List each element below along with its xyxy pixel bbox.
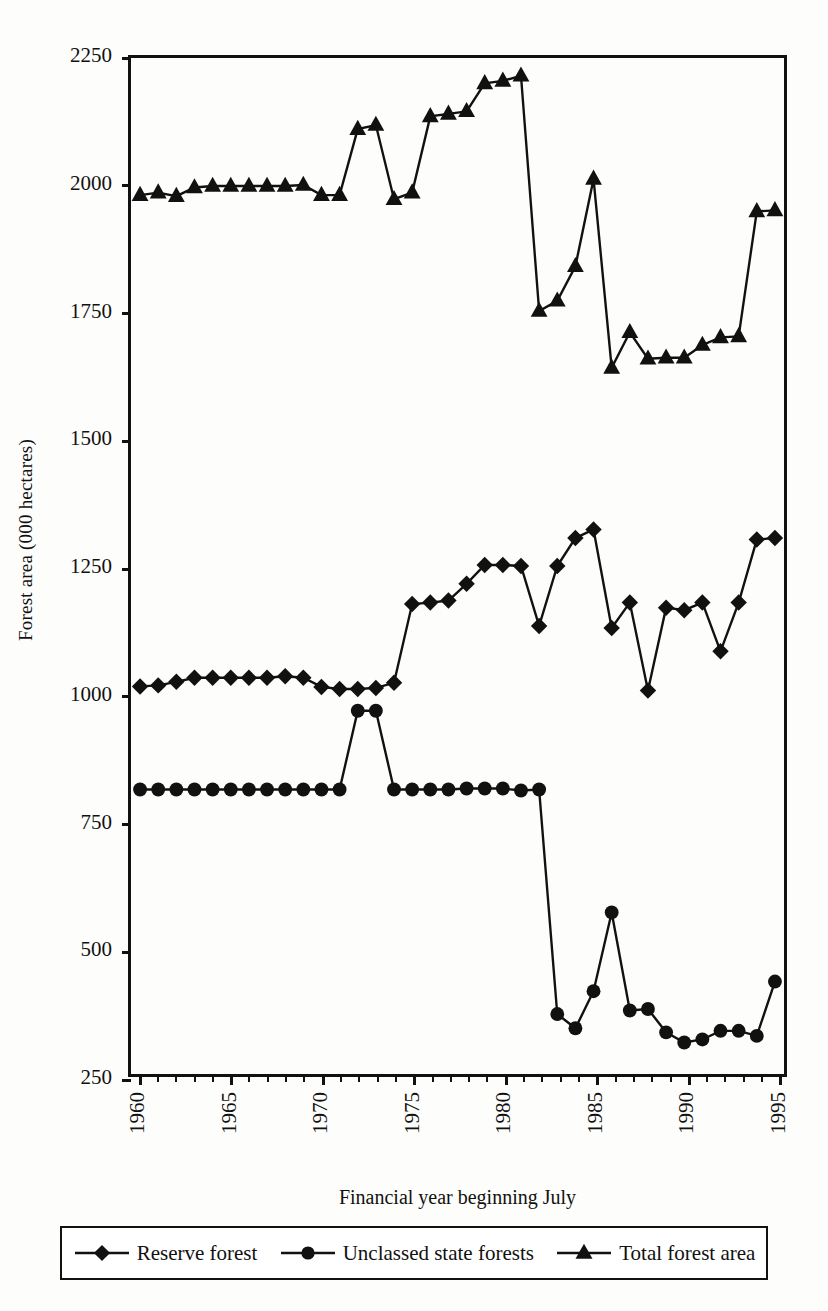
y-tick-label: 1750 — [70, 298, 112, 323]
y-tick-label: 2250 — [70, 43, 112, 68]
series-line — [140, 711, 775, 1043]
y-tick-mark — [122, 951, 131, 954]
y-tick-mark — [122, 568, 131, 571]
data-point-diamond — [640, 682, 656, 698]
x-tick-mark-major — [779, 1074, 782, 1085]
x-tick-mark-minor — [194, 1074, 196, 1082]
legend-item-circle[interactable]: Unclassed state forests — [279, 1241, 534, 1266]
data-point-diamond — [694, 594, 710, 610]
y-tick-mark — [122, 57, 131, 60]
x-tick-mark-minor — [267, 1074, 269, 1082]
x-tick-mark-minor — [706, 1074, 708, 1082]
data-point-diamond — [622, 594, 638, 610]
x-tick-mark-minor — [468, 1074, 470, 1082]
y-tick-label: 1500 — [70, 426, 112, 451]
x-tick-mark-minor — [486, 1074, 488, 1082]
data-point-circle — [623, 1004, 637, 1018]
data-point-circle — [242, 783, 256, 797]
x-tick-mark-minor — [615, 1074, 617, 1082]
data-point-triangle — [150, 183, 167, 198]
data-point-diamond — [712, 643, 728, 659]
x-tick-mark-minor — [340, 1074, 342, 1082]
x-tick-label: 1980 — [491, 1092, 516, 1134]
x-tick-mark-minor — [248, 1074, 250, 1082]
data-point-circle — [460, 782, 474, 796]
plot-area — [128, 55, 787, 1077]
data-point-diamond — [676, 602, 692, 618]
data-point-circle — [315, 783, 329, 797]
data-point-diamond — [531, 618, 547, 634]
data-point-diamond — [277, 668, 293, 684]
x-tick-mark-minor — [761, 1074, 763, 1082]
y-tick-label: 1000 — [70, 681, 112, 706]
series-diamond — [132, 521, 783, 699]
data-point-circle — [224, 783, 238, 797]
data-point-circle — [550, 1007, 564, 1021]
x-tick-mark-minor — [670, 1074, 672, 1082]
x-tick-label: 1975 — [399, 1092, 424, 1134]
data-point-circle — [206, 783, 220, 797]
x-tick-mark-minor — [432, 1074, 434, 1082]
x-tick-mark-minor — [724, 1074, 726, 1082]
data-point-triangle — [295, 176, 312, 191]
data-point-diamond — [658, 599, 674, 615]
data-point-triangle — [567, 257, 584, 272]
data-point-circle — [641, 1002, 655, 1016]
data-point-circle — [695, 1033, 709, 1047]
legend-label: Total forest area — [619, 1241, 755, 1266]
data-point-diamond — [168, 674, 184, 690]
data-point-diamond — [767, 530, 783, 546]
data-point-circle — [260, 783, 274, 797]
y-tick-mark — [122, 823, 131, 826]
series-circle — [133, 704, 782, 1050]
x-tick-mark-minor — [651, 1074, 653, 1082]
data-point-diamond — [585, 521, 601, 537]
x-tick-label: 1960 — [125, 1092, 150, 1134]
legend-item-triangle[interactable]: Total forest area — [555, 1241, 755, 1266]
data-point-triangle — [603, 359, 620, 374]
x-tick-label-text: 1980 — [491, 1092, 516, 1134]
y-tick-mark — [122, 440, 131, 443]
data-point-circle — [768, 975, 782, 989]
y-tick-label: 250 — [81, 1065, 113, 1090]
y-tick-label: 2000 — [70, 170, 112, 195]
x-tick-mark-minor — [578, 1074, 580, 1082]
x-axis-tick-labels: 19601965197019751980198519901995 — [128, 1092, 787, 1184]
legend-label: Reserve forest — [137, 1241, 258, 1266]
data-point-diamond — [186, 670, 202, 686]
data-point-circle — [188, 783, 202, 797]
data-point-diamond — [603, 620, 619, 636]
data-point-circle — [587, 984, 601, 998]
data-point-diamond — [223, 670, 239, 686]
legend-glyph — [576, 1244, 593, 1259]
x-tick-mark-minor — [560, 1074, 562, 1082]
data-point-circle — [732, 1024, 746, 1038]
data-point-diamond — [204, 670, 220, 686]
data-point-circle — [296, 783, 310, 797]
data-point-diamond — [730, 594, 746, 610]
x-tick-mark-minor — [285, 1074, 287, 1082]
legend-glyph — [301, 1246, 314, 1259]
data-point-triangle — [204, 177, 221, 192]
data-point-diamond — [313, 679, 329, 695]
series-canvas — [131, 58, 784, 1074]
data-point-triangle — [331, 186, 348, 201]
x-tick-mark-minor — [523, 1074, 525, 1082]
forest-area-chart: Forest area (000 hectares) 2505007501000… — [0, 0, 828, 1311]
data-point-circle — [532, 783, 546, 797]
legend-item-diamond[interactable]: Reserve forest — [73, 1241, 258, 1266]
x-tick-label: 1985 — [582, 1092, 607, 1134]
data-point-circle — [714, 1024, 728, 1038]
legend-marker-diamond-icon — [73, 1242, 131, 1264]
legend-glyph — [94, 1245, 110, 1261]
data-point-diamond — [749, 531, 765, 547]
data-point-triangle — [277, 177, 294, 192]
data-point-triangle — [712, 328, 729, 343]
data-point-triangle — [549, 292, 566, 307]
legend-marker-triangle-icon — [555, 1242, 613, 1264]
data-point-circle — [605, 906, 619, 920]
data-point-circle — [496, 782, 510, 796]
data-point-circle — [278, 783, 292, 797]
data-point-circle — [169, 783, 183, 797]
y-tick-label: 500 — [81, 937, 113, 962]
